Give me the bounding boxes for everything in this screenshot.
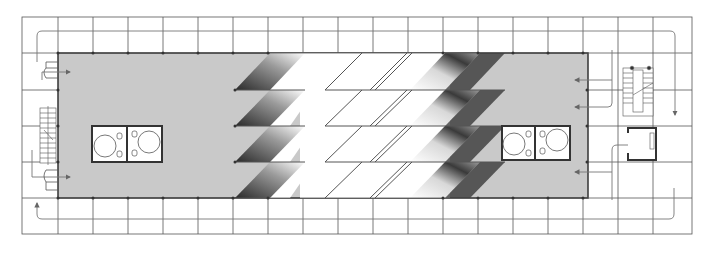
floor-plan-drawing	[0, 0, 709, 263]
atrium-void	[235, 53, 505, 198]
right-stair	[623, 66, 653, 116]
right-elevator	[628, 128, 656, 160]
right-core-restrooms	[502, 126, 570, 160]
left-core-restrooms	[92, 126, 162, 162]
left-stair	[40, 106, 56, 165]
